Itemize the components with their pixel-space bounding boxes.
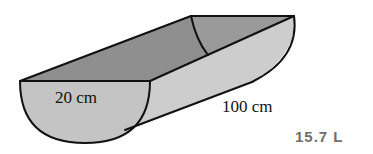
volume-answer: 15.7 L	[295, 129, 344, 144]
length-label: 100 cm	[222, 98, 273, 115]
diameter-label: 20 cm	[55, 89, 97, 106]
trough-diagram: 20 cm 100 cm 15.7 L	[0, 0, 373, 154]
